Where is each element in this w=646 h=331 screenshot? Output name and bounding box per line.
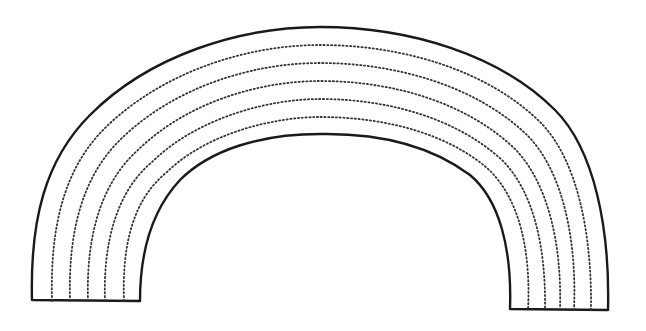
rainbow-outline bbox=[32, 27, 608, 310]
rainbow-diagram bbox=[0, 0, 646, 331]
